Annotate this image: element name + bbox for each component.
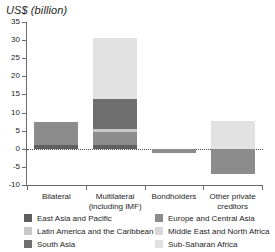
legend-swatch-icon	[24, 214, 32, 222]
bar-group	[34, 22, 78, 185]
y-tick-mark	[22, 22, 27, 23]
x-tick-mark	[27, 186, 28, 190]
y-tick-mark	[22, 131, 27, 132]
y-tick-label: 35	[0, 18, 20, 26]
y-axis-line	[26, 22, 27, 186]
y-tick-label: 20	[0, 72, 20, 80]
category-label-line: Bondholders	[145, 192, 204, 202]
bar-segment	[93, 145, 137, 149]
y-tick-label: 10	[0, 109, 20, 117]
bar-segment	[93, 132, 137, 145]
y-tick-label: 15	[0, 90, 20, 98]
bar-segment	[93, 99, 137, 129]
category-label: Multilateral(including IMF)	[86, 192, 145, 212]
y-tick-label: -10	[0, 181, 20, 189]
bar-segment	[93, 38, 137, 98]
bar-segment	[34, 122, 78, 146]
y-tick-label: 25	[0, 54, 20, 62]
y-tick-label: 30	[0, 36, 20, 44]
x-tick-mark	[203, 186, 204, 190]
legend-label: Latin America and the Caribbean	[37, 227, 154, 236]
y-tick-mark	[22, 58, 27, 59]
category-label-line: Bilateral	[27, 192, 86, 202]
bar-group	[211, 22, 255, 185]
y-tick-mark	[22, 167, 27, 168]
y-tick-mark	[22, 94, 27, 95]
legend-swatch-icon	[24, 240, 32, 248]
category-label-line: (including IMF)	[86, 202, 145, 212]
x-tick-mark	[262, 186, 263, 190]
legend-column-right: Europe and Central AsiaMiddle East and N…	[155, 212, 275, 251]
bar-segment	[211, 121, 255, 149]
legend-item[interactable]: Latin America and the Caribbean	[24, 225, 148, 237]
x-tick-mark	[145, 186, 146, 190]
chart-container: US$ (billion) 35302520151050-5-10 Bilate…	[0, 0, 275, 252]
y-tick-label: -5	[0, 163, 20, 171]
chart-legend: East Asia and PacificLatin America and t…	[24, 212, 272, 250]
y-tick-mark	[22, 113, 27, 114]
bar-segment	[34, 145, 78, 149]
legend-label: East Asia and Pacific	[37, 214, 112, 223]
axis-title: US$ (billion)	[6, 4, 67, 16]
legend-label: Europe and Central Asia	[168, 214, 255, 223]
y-tick-label: 0	[0, 145, 20, 153]
legend-item[interactable]: Europe and Central Asia	[155, 212, 275, 224]
category-label: Bondholders	[145, 192, 204, 202]
legend-swatch-icon	[155, 227, 163, 235]
legend-item[interactable]: South Asia	[24, 238, 148, 250]
y-tick-mark	[22, 40, 27, 41]
bar-segment	[152, 149, 196, 153]
legend-swatch-icon	[155, 240, 163, 248]
category-label-line: creditors	[203, 202, 262, 212]
category-label-line: Other private	[203, 192, 262, 202]
legend-column-left: East Asia and PacificLatin America and t…	[24, 212, 148, 251]
y-tick-label: 5	[0, 127, 20, 135]
legend-label: Middle East and North Africa	[168, 227, 269, 236]
legend-swatch-icon	[24, 227, 32, 235]
category-label: Bilateral	[27, 192, 86, 202]
legend-label: South Asia	[37, 240, 75, 249]
legend-item[interactable]: Sub-Saharan Africa	[155, 238, 275, 250]
legend-item[interactable]: Middle East and North Africa	[155, 225, 275, 237]
bar-group	[152, 22, 196, 185]
bar-group	[93, 22, 137, 185]
bar-segment	[93, 129, 137, 133]
legend-swatch-icon	[155, 214, 163, 222]
category-label-line: Multilateral	[86, 192, 145, 202]
legend-item[interactable]: East Asia and Pacific	[24, 212, 148, 224]
x-tick-mark	[86, 186, 87, 190]
category-label: Other privatecreditors	[203, 192, 262, 212]
legend-label: Sub-Saharan Africa	[168, 240, 237, 249]
bar-segment	[211, 149, 255, 175]
y-tick-mark	[22, 76, 27, 77]
